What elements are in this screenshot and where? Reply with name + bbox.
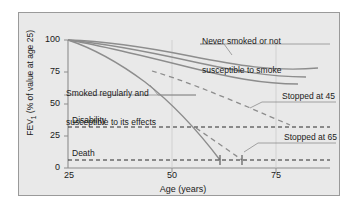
threshold-label-death: Death	[72, 149, 138, 159]
y-tick-label-25: 25	[38, 130, 60, 140]
annotation-smoked-regularly: Smoked regularly and susceptible to its …	[66, 70, 200, 146]
y-axis-title-suffix: (% of value at age 25)	[25, 30, 35, 116]
annotation-never-smoked: Never smoked or not susceptible to smoke	[202, 18, 334, 94]
x-axis-title: Age (years)	[128, 184, 238, 194]
annotation-smoked-regularly-line-1: Smoked regularly and	[66, 89, 200, 99]
x-tick-label-25: 25	[60, 170, 78, 180]
annotation-never-smoked-line-1: Never smoked or not	[202, 37, 334, 47]
y-tick-label-50: 50	[38, 98, 60, 108]
y-axis-title-prefix: FEV	[25, 119, 35, 136]
figure-root: 100 75 50 25 0 25 50 75 Age (years) FEV1…	[0, 0, 358, 208]
x-tick-label-75: 75	[267, 170, 285, 180]
annotation-never-smoked-line-2: susceptible to smoke	[202, 66, 334, 76]
annotation-stopped-at-45: Stopped at 45	[282, 92, 338, 102]
annotation-stopped-at-65: Stopped at 65	[284, 133, 340, 143]
y-tick-label-0: 0	[38, 162, 60, 172]
threshold-label-disability: Disability	[72, 116, 138, 126]
y-tick-label-75: 75	[38, 66, 60, 76]
y-tick-label-100: 100	[38, 34, 60, 44]
y-axis-title-subscript: 1	[30, 116, 37, 120]
x-tick-label-50: 50	[163, 170, 181, 180]
y-axis-title: FEV1 (% of value at age 25)	[25, 25, 37, 141]
